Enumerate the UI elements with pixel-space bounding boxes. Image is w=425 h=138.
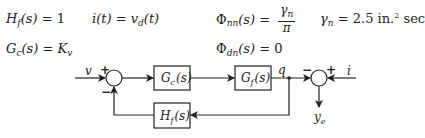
gc-sub: c	[171, 78, 176, 87]
sum2-minus-sign: −	[302, 63, 312, 77]
gc-arg: (s)	[176, 71, 192, 85]
label-v: v	[85, 64, 92, 78]
ye-sub: e	[321, 117, 326, 126]
hf-name: H	[159, 109, 171, 123]
hf-arg: (s)	[174, 109, 190, 123]
gf-name: G	[241, 71, 251, 85]
gf-arg: (s)	[255, 71, 271, 85]
sum2-plus-sign: +	[326, 63, 336, 77]
block-hf-label: Hf(s)	[159, 109, 190, 125]
block-gf-label: Gf(s)	[241, 71, 270, 87]
wire-hf-to-sum1	[114, 87, 154, 115]
block-gc-label: Gc(s)	[161, 71, 192, 87]
sum1-plus-sign: +	[100, 63, 110, 77]
wire-q-to-hf	[191, 78, 289, 115]
label-i: i	[347, 64, 351, 78]
gc-name: G	[161, 71, 171, 85]
label-q: q	[278, 63, 286, 77]
branch-point-q	[287, 76, 291, 80]
sum1-minus-sign: −	[101, 85, 111, 99]
label-ye: ye	[313, 110, 326, 126]
summing-junction-2	[311, 70, 327, 86]
